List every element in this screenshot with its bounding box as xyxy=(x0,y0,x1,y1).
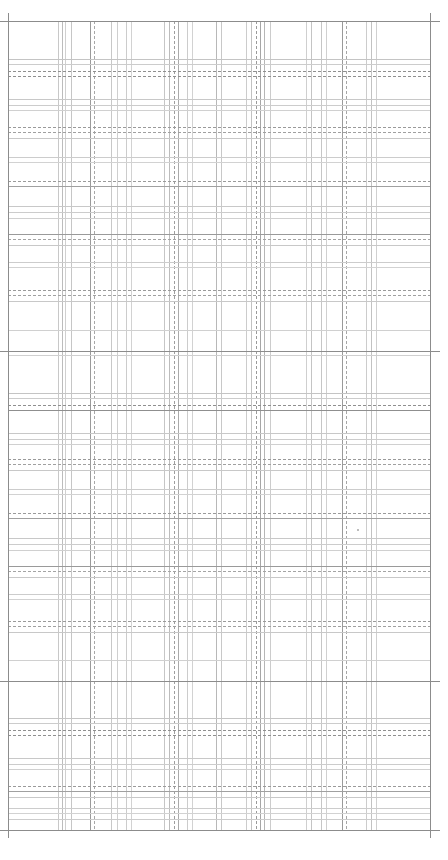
grid-vertical-line xyxy=(256,21,257,830)
grid-horizontal-line xyxy=(8,71,430,72)
grid-horizontal-line xyxy=(8,599,430,600)
frame-top-border xyxy=(0,21,440,22)
grid-horizontal-line xyxy=(8,464,430,465)
grid-horizontal-line xyxy=(8,660,430,661)
grid-horizontal-line xyxy=(8,245,430,246)
grid-horizontal-line xyxy=(8,544,430,545)
grid-vertical-line xyxy=(178,21,179,830)
grid-horizontal-line xyxy=(8,718,430,719)
grid-horizontal-line xyxy=(8,110,430,111)
grid-vertical-line xyxy=(264,21,265,830)
grid-vertical-line xyxy=(221,21,222,830)
grid-horizontal-line xyxy=(8,538,430,539)
grid-horizontal-line xyxy=(8,518,430,519)
grid-horizontal-line xyxy=(8,470,430,471)
grid-horizontal-line xyxy=(8,489,430,490)
grid-horizontal-line xyxy=(8,797,430,798)
grid-horizontal-line xyxy=(8,157,430,158)
grid-horizontal-line xyxy=(8,76,430,77)
grid-horizontal-line xyxy=(8,398,430,399)
grid-horizontal-line xyxy=(8,808,430,809)
grid-horizontal-line xyxy=(8,239,430,240)
grid-horizontal-line xyxy=(8,105,430,106)
grid-horizontal-line xyxy=(8,730,430,731)
grid-vertical-line xyxy=(71,21,72,830)
grid-horizontal-line xyxy=(8,212,430,213)
grid-vertical-line xyxy=(306,21,307,830)
grid-horizontal-line xyxy=(8,138,430,139)
frame-left-border xyxy=(8,13,9,838)
grid-vertical-line xyxy=(311,21,312,830)
grid-horizontal-line xyxy=(8,459,430,460)
grid-horizontal-line xyxy=(8,127,430,128)
grid-horizontal-line xyxy=(8,206,430,207)
grid-horizontal-line xyxy=(8,355,430,356)
grid-horizontal-line xyxy=(8,267,430,268)
grid-vertical-line xyxy=(65,21,66,830)
grid-horizontal-line xyxy=(8,577,430,578)
grid-vertical-line xyxy=(366,21,367,830)
grid-paper-canvas xyxy=(0,0,448,860)
grid-horizontal-line xyxy=(8,262,430,263)
grid-horizontal-line xyxy=(8,234,430,235)
grid-vertical-line xyxy=(270,21,271,830)
grid-horizontal-line xyxy=(8,632,430,633)
grid-vertical-line xyxy=(58,21,59,830)
frame-major-horizontal xyxy=(0,351,440,352)
grid-horizontal-line xyxy=(8,764,430,765)
grid-horizontal-line xyxy=(8,64,430,65)
grid-vertical-line xyxy=(342,21,343,830)
grid-horizontal-line xyxy=(8,494,430,495)
grid-horizontal-line xyxy=(8,819,430,820)
grid-horizontal-line xyxy=(8,301,430,302)
grid-horizontal-line xyxy=(8,99,430,100)
frame-right-border xyxy=(430,13,431,838)
grid-horizontal-line xyxy=(8,295,430,296)
grid-horizontal-line xyxy=(8,769,430,770)
grid-vertical-line xyxy=(216,21,217,830)
grid-vertical-line xyxy=(326,21,327,830)
speck-mark xyxy=(357,529,359,531)
grid-vertical-line xyxy=(174,21,175,830)
grid-horizontal-line xyxy=(8,132,430,133)
grid-vertical-line xyxy=(376,21,377,830)
grid-horizontal-line xyxy=(8,290,430,291)
grid-vertical-line xyxy=(90,21,91,830)
grid-horizontal-line xyxy=(8,550,430,551)
grid-horizontal-line xyxy=(8,735,430,736)
grid-horizontal-line xyxy=(8,59,430,60)
grid-vertical-line xyxy=(117,21,118,830)
grid-horizontal-line xyxy=(8,405,430,406)
grid-horizontal-line xyxy=(8,433,430,434)
grid-vertical-line xyxy=(246,21,247,830)
grid-horizontal-line xyxy=(8,621,430,622)
grid-horizontal-line xyxy=(8,571,430,572)
grid-vertical-line xyxy=(371,21,372,830)
grid-vertical-line xyxy=(164,21,165,830)
grid-horizontal-line xyxy=(8,410,430,411)
grid-vertical-line xyxy=(62,21,63,830)
grid-horizontal-line xyxy=(8,594,430,595)
grid-horizontal-line xyxy=(8,218,430,219)
grid-vertical-line xyxy=(346,21,347,830)
grid-vertical-line xyxy=(94,21,95,830)
grid-horizontal-line xyxy=(8,513,430,514)
grid-vertical-line xyxy=(131,21,132,830)
grid-vertical-line xyxy=(321,21,322,830)
grid-horizontal-line xyxy=(8,330,430,331)
grid-horizontal-line xyxy=(8,444,430,445)
grid-horizontal-line xyxy=(8,393,430,394)
grid-vertical-line xyxy=(126,21,127,830)
grid-vertical-line xyxy=(251,21,252,830)
grid-horizontal-line xyxy=(8,186,430,187)
grid-vertical-line xyxy=(192,21,193,830)
frame-bottom-border xyxy=(0,830,440,831)
grid-vertical-line xyxy=(111,21,112,830)
grid-horizontal-line xyxy=(8,813,430,814)
grid-horizontal-line xyxy=(8,566,430,567)
grid-horizontal-line xyxy=(8,786,430,787)
grid-horizontal-line xyxy=(8,626,430,627)
grid-vertical-line xyxy=(169,21,170,830)
frame-major-horizontal xyxy=(0,681,440,682)
grid-horizontal-line xyxy=(8,439,430,440)
